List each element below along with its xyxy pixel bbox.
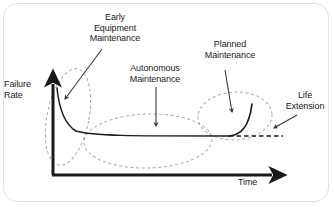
annotation-arrows bbox=[65, 49, 297, 128]
early-equipment-maintenance-label: Early Equipment Maintenance bbox=[78, 12, 152, 44]
axes bbox=[52, 84, 272, 175]
life-extension-arrow bbox=[274, 115, 297, 128]
x-axis-label: Time bbox=[238, 177, 280, 188]
useful-life-region-ellipse bbox=[83, 112, 212, 169]
planned-maintenance-label: Planned Maintenance bbox=[192, 39, 268, 60]
autonomous-maintenance-label: Autonomous Maintenance bbox=[113, 63, 197, 84]
early-equipment-maintenance-arrow bbox=[65, 49, 102, 99]
planned-maintenance-arrow bbox=[225, 70, 232, 112]
wear-out-rise-curve bbox=[229, 104, 252, 136]
diagram-canvas: Early Equipment Maintenance Autonomous M… bbox=[0, 0, 334, 207]
life-extension-label: Life Extension bbox=[281, 90, 329, 111]
y-axis-label: Failure Rate bbox=[4, 79, 50, 100]
